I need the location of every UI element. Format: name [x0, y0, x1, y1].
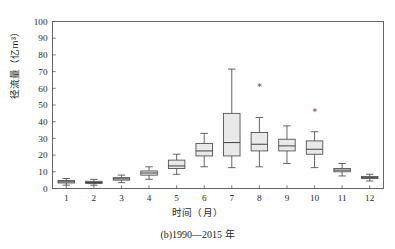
boxplot-box: [279, 126, 296, 164]
x-tick-label: 11: [338, 193, 347, 203]
boxplot-box: ∗: [251, 80, 268, 167]
y-tick-label: 90: [38, 33, 48, 43]
figure-container: 0102030405060708090100 123456789101112 ∗…: [0, 0, 395, 249]
y-tick-label: 100: [34, 17, 48, 27]
y-tick-label: 10: [38, 167, 48, 177]
boxplot-box: [141, 167, 158, 180]
y-tick-label: 0: [43, 184, 48, 194]
boxplot-series: ∗∗: [58, 69, 378, 185]
y-axis-title: 径流量（亿m³）: [7, 4, 21, 122]
y-tick-label: 30: [38, 134, 48, 144]
plot-frame: [53, 22, 384, 189]
boxplot-box: [86, 179, 103, 185]
y-tick-label: 60: [38, 84, 48, 94]
boxplot-box: [58, 178, 75, 185]
boxplot-box: [361, 174, 378, 181]
x-tick-label: 2: [92, 193, 97, 203]
x-tick-label: 9: [285, 193, 290, 203]
x-tick-label: 10: [310, 193, 320, 203]
y-tick-label: 50: [38, 100, 48, 110]
figure-caption: (b)1990—2015 年: [0, 226, 395, 241]
x-tick-label: 7: [229, 193, 234, 203]
y-tick-label: 20: [38, 150, 48, 160]
boxplot-box: ∗: [306, 105, 323, 167]
boxplot-box: [224, 69, 241, 168]
y-tick-label: 40: [38, 117, 48, 127]
x-tick-label: 3: [119, 193, 124, 203]
boxplot-box: [334, 163, 351, 176]
x-tick-label: 12: [365, 193, 375, 203]
x-axis-title: 时间（月）: [0, 205, 395, 219]
boxplot-box: [168, 154, 185, 174]
boxplot-box: [196, 133, 213, 166]
x-tick-label: 5: [174, 193, 179, 203]
x-tick-label: 1: [64, 193, 69, 203]
outlier-point: ∗: [311, 105, 317, 115]
x-axis-ticks: 123456789101112: [64, 185, 375, 202]
x-tick-label: 8: [257, 193, 262, 203]
y-tick-label: 70: [38, 67, 48, 77]
boxplot-box: [113, 175, 130, 183]
outlier-point: ∗: [256, 80, 262, 90]
y-tick-label: 80: [38, 50, 48, 60]
x-tick-label: 4: [147, 193, 152, 203]
x-tick-label: 6: [202, 193, 207, 203]
